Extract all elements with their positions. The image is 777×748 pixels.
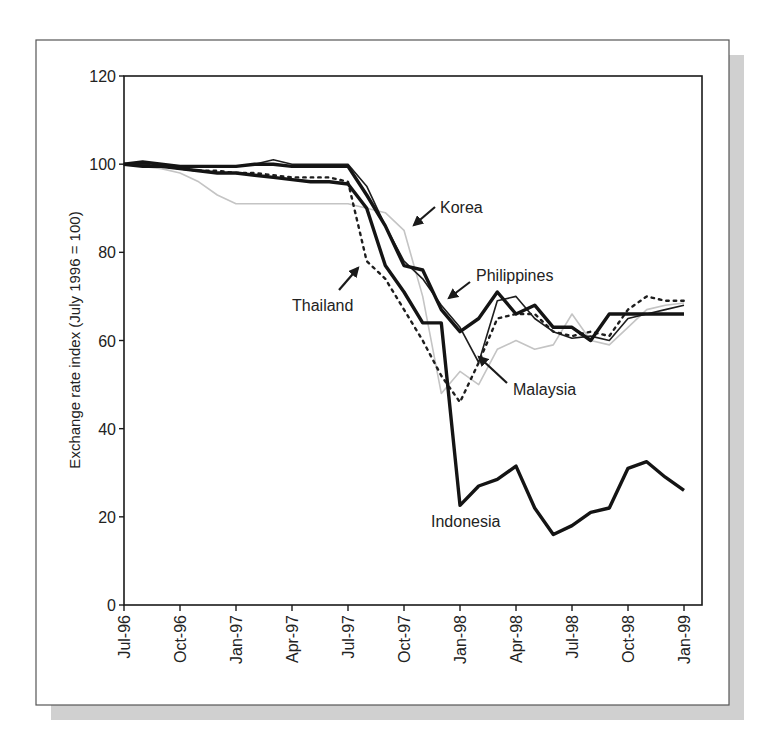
annotation-korea: Korea [440,199,483,216]
x-tick-label: Oct-97 [396,615,413,663]
y-tick-label: 40 [98,421,116,438]
x-tick-label: Apr-97 [284,615,301,663]
x-tick-label: Oct-98 [620,615,637,663]
annotation-indonesia: Indonesia [431,513,500,530]
x-tick-label: Oct-96 [172,615,189,663]
x-tick-label: Jan-97 [228,615,245,664]
x-tick-label: Jul-98 [564,615,581,659]
y-tick-label: 120 [89,68,116,85]
annotation-philippines: Philippines [476,267,553,284]
annotation-malaysia: Malaysia [513,381,576,398]
x-tick-label: Jan-99 [676,615,693,664]
y-tick-label: 60 [98,333,116,350]
y-tick-label: 20 [98,509,116,526]
x-tick-label: Jan-98 [452,615,469,664]
annotation-thailand: Thailand [292,297,353,314]
y-tick-label: 0 [107,597,116,614]
y-tick-label: 80 [98,244,116,261]
line-chart: 020406080100120Jul-96Oct-96Jan-97Apr-97J… [0,0,777,748]
y-tick-label: 100 [89,156,116,173]
y-axis-label: Exchange rate index (July 1996 = 100) [66,211,83,468]
chart-figure: 020406080100120Jul-96Oct-96Jan-97Apr-97J… [0,0,777,748]
x-tick-label: Jul-97 [340,615,357,659]
x-tick-label: Jul-96 [116,615,133,659]
x-tick-label: Apr-98 [508,615,525,663]
